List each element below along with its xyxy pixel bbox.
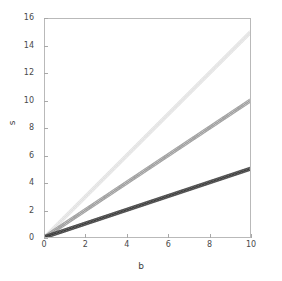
y-tick-label-2: 2: [8, 207, 34, 215]
y-tick-label-16: 16: [8, 14, 34, 22]
plot-area: [44, 18, 251, 238]
y-tick-16: [44, 18, 48, 19]
x-tick-label-8: 8: [195, 241, 225, 249]
y-tick-label-14: 14: [8, 42, 34, 50]
y-tick-label-4: 4: [8, 179, 34, 187]
x-tick-6: [168, 234, 169, 238]
x-tick-label-10: 10: [236, 241, 266, 249]
y-tick-14: [44, 46, 48, 47]
x-tick-label-4: 4: [112, 241, 142, 249]
y-axis-title: s: [7, 103, 17, 143]
x-tick-label-0: 0: [29, 241, 59, 249]
x-tick-4: [127, 234, 128, 238]
x-tick-8: [210, 234, 211, 238]
x-tick-label-6: 6: [153, 241, 183, 249]
y-tick-2: [44, 211, 48, 212]
series-0: [45, 31, 250, 237]
series-1: [45, 99, 250, 237]
x-axis-title: b: [0, 261, 282, 271]
y-tick-label-6: 6: [8, 152, 34, 160]
y-tick-10: [44, 101, 48, 102]
y-tick-0: [44, 238, 48, 239]
x-tick-label-2: 2: [70, 241, 100, 249]
y-tick-6: [44, 156, 48, 157]
y-tick-4: [44, 183, 48, 184]
series-layer: [45, 19, 250, 237]
x-tick-0: [44, 234, 45, 238]
y-tick-8: [44, 128, 48, 129]
x-tick-10: [251, 234, 252, 238]
figure-canvas: 0246810121416 0246810 b s: [0, 0, 282, 281]
y-tick-12: [44, 73, 48, 74]
y-tick-label-12: 12: [8, 69, 34, 77]
series-2: [45, 167, 250, 237]
x-tick-2: [85, 234, 86, 238]
